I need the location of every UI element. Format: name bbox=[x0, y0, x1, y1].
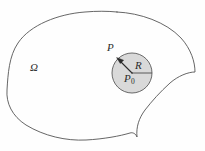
region-label-omega: Ω bbox=[30, 62, 38, 73]
omega-region-outline bbox=[7, 11, 195, 140]
figure-container: Ω P R P0 bbox=[0, 0, 205, 151]
center-point-label-base: P bbox=[124, 72, 131, 84]
diagram-canvas bbox=[0, 0, 205, 151]
center-point-label-subscript: 0 bbox=[131, 77, 135, 86]
radius-label-r: R bbox=[135, 60, 142, 71]
center-point-label-p0: P0 bbox=[124, 73, 135, 85]
boundary-point-label-p: P bbox=[107, 42, 114, 53]
